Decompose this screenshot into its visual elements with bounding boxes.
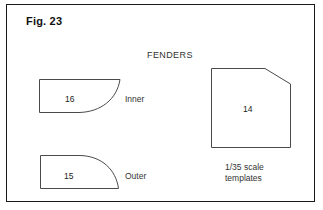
figure-title: Fig. 23 [26, 15, 62, 27]
scale-caption-line1: 1/35 scale [225, 162, 264, 173]
outer-fender-label: Outer [125, 171, 146, 181]
outer-fender-number: 15 [64, 171, 73, 181]
scale-caption: 1/35 scale templates [225, 162, 264, 184]
fenders-heading: FENDERS [147, 50, 193, 60]
outer-fender-outline [41, 156, 119, 189]
figure-diagram: Fig. 23 FENDERS 16 Inner 15 Outer 14 1/3… [0, 0, 323, 210]
inner-fender-number: 16 [65, 94, 74, 104]
inner-fender-outline [40, 80, 121, 113]
inner-fender-label: Inner [125, 94, 144, 104]
template-panel-number: 14 [243, 104, 252, 114]
scale-caption-line2: templates [225, 173, 264, 184]
figure-border: Fig. 23 FENDERS 16 Inner 15 Outer 14 1/3… [6, 4, 315, 202]
shape-outer-fender [40, 155, 120, 195]
shape-inner-fender [39, 79, 121, 119]
